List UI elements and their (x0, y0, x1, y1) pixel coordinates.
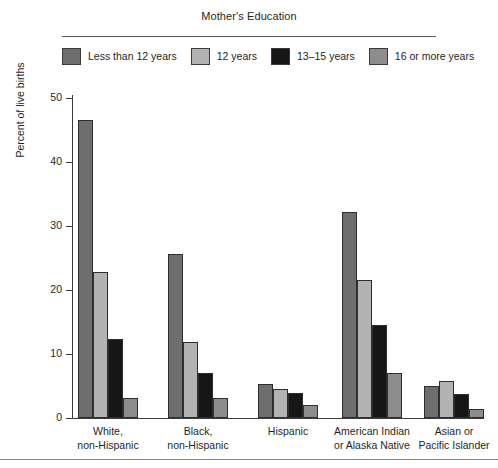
y-axis-tick (66, 354, 72, 355)
y-axis-label: Percent of live births (14, 30, 26, 190)
x-axis-line (72, 418, 484, 419)
y-axis-tick-label: 10 (30, 347, 62, 360)
legend-item: Less than 12 years (62, 48, 177, 65)
plot-area: 01020304050 White, non-HispanicBlack, no… (72, 98, 484, 418)
legend-item: 16 or more years (369, 48, 474, 65)
legend-item-label: 13–15 years (297, 50, 355, 62)
bar (93, 272, 108, 418)
bar-group-bars (258, 98, 318, 418)
y-axis-tick (66, 162, 72, 163)
y-axis-tick-label: 40 (30, 155, 62, 168)
bar-group: Black, non-Hispanic (168, 98, 228, 418)
bar (198, 373, 213, 418)
bar (439, 381, 454, 418)
bar (273, 389, 288, 418)
legend-swatch-icon (271, 48, 290, 65)
legend-swatch-icon (369, 48, 388, 65)
bar (123, 398, 138, 418)
legend-item: 13–15 years (271, 48, 355, 65)
bar (183, 342, 198, 418)
legend-item-label: 16 or more years (395, 50, 474, 62)
y-axis-tick-label: 30 (30, 219, 62, 232)
bar (213, 398, 228, 418)
legend-swatch-icon (62, 48, 81, 65)
bar-group-bars (424, 98, 484, 418)
bar (357, 280, 372, 418)
bar-group: White, non-Hispanic (78, 98, 138, 418)
bar (258, 384, 273, 418)
bar (387, 373, 402, 418)
legend: Less than 12 years12 years13–15 years16 … (62, 47, 442, 65)
y-axis-tick-label: 0 (30, 411, 62, 424)
legend-divider (62, 36, 436, 37)
footer-divider (0, 459, 498, 460)
bar (78, 120, 93, 418)
y-axis-tick (66, 226, 72, 227)
bar (303, 405, 318, 418)
y-axis-line (72, 95, 73, 418)
legend-title: Mother's Education (0, 10, 498, 22)
x-axis-group-label: White, non-Hispanic (56, 424, 160, 452)
bar (469, 409, 484, 418)
bar-group: American Indian or Alaska Native (342, 98, 402, 418)
bar (342, 212, 357, 418)
bar-group-bars (78, 98, 138, 418)
bar-group: Asian or Pacific Islander (424, 98, 484, 418)
y-axis-tick-label: 50 (30, 91, 62, 104)
y-axis-tick (66, 418, 72, 419)
bar-group-bars (168, 98, 228, 418)
bar-group-bars (342, 98, 402, 418)
bar (108, 339, 123, 418)
bar (424, 386, 439, 418)
figure: Mother's Education Less than 12 years12 … (0, 0, 498, 468)
x-axis-group-label: Asian or Pacific Islander (402, 424, 498, 452)
legend-item-label: 12 years (217, 50, 257, 62)
bar (454, 394, 469, 418)
legend-swatch-icon (191, 48, 210, 65)
bar (168, 254, 183, 418)
bar (288, 393, 303, 418)
legend-item-label: Less than 12 years (88, 50, 177, 62)
y-axis-tick (66, 98, 72, 99)
y-axis-tick-label: 20 (30, 283, 62, 296)
bar (372, 325, 387, 418)
x-axis-group-label: Black, non-Hispanic (146, 424, 250, 452)
bar-group: Hispanic (258, 98, 318, 418)
y-axis-tick (66, 290, 72, 291)
legend-item: 12 years (191, 48, 257, 65)
